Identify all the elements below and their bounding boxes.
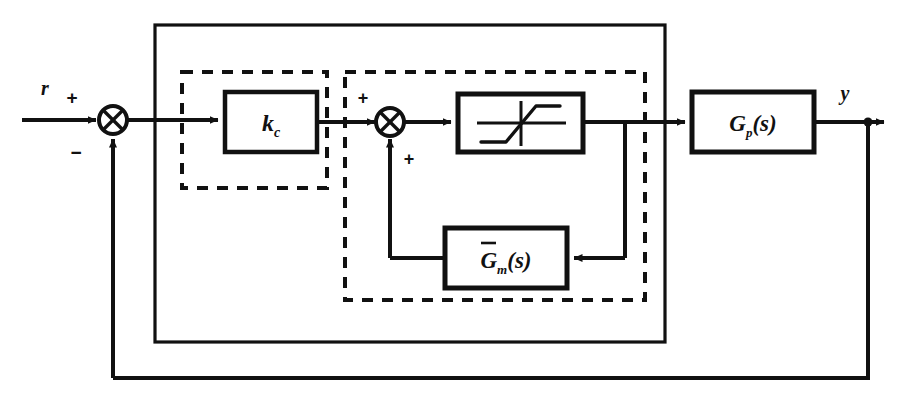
reference-signal-label: r — [41, 77, 49, 99]
controller-gain-label-sub: c — [274, 125, 281, 140]
plant-label-main: G — [729, 111, 746, 136]
plant-label-tail: (s) — [752, 111, 776, 136]
inner-summer — [376, 108, 404, 136]
inner-summer-plus-sign-bottom: + — [404, 149, 415, 169]
plant-transfer-function-block[interactable]: Gp(s) — [692, 92, 814, 152]
model-label-tail: (s) — [507, 248, 531, 273]
saturation-block[interactable] — [458, 94, 583, 152]
output-signal-label: y — [839, 82, 850, 105]
model-label-main: G — [480, 248, 497, 273]
error-summer-plus-sign: + — [66, 87, 77, 108]
block-diagram-canvas: + − + + kc — [0, 0, 908, 400]
error-summer — [99, 106, 127, 134]
svg-text:Gp(s): Gp(s) — [729, 111, 776, 140]
controller-gain-block[interactable]: kc — [225, 92, 317, 152]
inner-summer-plus-sign-top: + — [358, 88, 369, 108]
model-transfer-function-block[interactable]: Gm(s) — [445, 228, 567, 288]
model-label-sub: m — [497, 262, 507, 277]
error-summer-minus-sign: − — [70, 142, 81, 163]
block-diagram-svg: + − + + kc — [0, 0, 908, 400]
controller-gain-label-main: k — [262, 110, 274, 136]
